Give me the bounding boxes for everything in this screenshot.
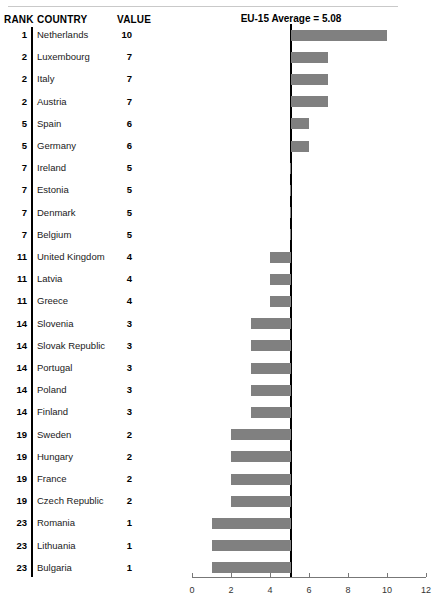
table-row: 2Austria7	[0, 91, 404, 113]
cell-country: Lithuania	[37, 535, 76, 557]
cell-country: Netherlands	[37, 24, 88, 46]
cell-rank: 19	[0, 446, 27, 468]
cell-country: Luxembourg	[37, 46, 90, 68]
table-row: 14Finland3	[0, 401, 404, 423]
cell-rank: 14	[0, 335, 27, 357]
x-axis-tick	[387, 573, 388, 577]
cell-value: 6	[101, 113, 132, 135]
table-row: 23Bulgaria1	[0, 557, 404, 579]
table-row: 11Latvia4	[0, 268, 404, 290]
cell-value: 5	[101, 202, 132, 224]
cell-country: Italy	[37, 68, 54, 90]
x-axis-tick	[348, 573, 349, 577]
cell-rank: 19	[0, 490, 27, 512]
x-axis-tick	[270, 573, 271, 577]
cell-value: 3	[101, 379, 132, 401]
cell-value: 5	[101, 179, 132, 201]
cell-rank: 23	[0, 557, 27, 579]
table-row: 5Spain6	[0, 113, 404, 135]
cell-rank: 5	[0, 113, 27, 135]
cell-value: 1	[101, 557, 132, 579]
cell-country: Romania	[37, 512, 75, 534]
x-axis-tick	[231, 573, 232, 577]
cell-country: Slovak Republic	[37, 335, 105, 357]
cell-country: Latvia	[37, 268, 62, 290]
top-divider	[8, 6, 398, 7]
cell-rank: 7	[0, 202, 27, 224]
cell-value: 2	[101, 446, 132, 468]
table-row: 7Ireland5	[0, 157, 404, 179]
cell-country: Belgium	[37, 224, 71, 246]
cell-rank: 14	[0, 401, 27, 423]
cell-value: 5	[101, 157, 132, 179]
cell-country: Greece	[37, 290, 68, 312]
cell-value: 4	[101, 246, 132, 268]
x-axis-tick-label: 10	[377, 585, 397, 595]
table-row: 23Romania1	[0, 512, 404, 534]
cell-value: 10	[101, 24, 132, 46]
cell-country: Finland	[37, 401, 68, 423]
cell-country: Hungary	[37, 446, 73, 468]
table-row: 11Greece4	[0, 290, 404, 312]
x-axis-tick	[426, 573, 427, 577]
cell-rank: 7	[0, 224, 27, 246]
x-axis-tick-label: 8	[338, 585, 358, 595]
cell-country: Austria	[37, 91, 67, 113]
cell-value: 7	[101, 46, 132, 68]
cell-country: Portugal	[37, 357, 72, 379]
cell-rank: 11	[0, 290, 27, 312]
x-axis-line	[192, 577, 426, 578]
cell-rank: 2	[0, 68, 27, 90]
table-row: 19Sweden2	[0, 424, 404, 446]
cell-country: Denmark	[37, 202, 76, 224]
cell-rank: 2	[0, 46, 27, 68]
cell-country: Slovenia	[37, 313, 73, 335]
cell-rank: 23	[0, 535, 27, 557]
cell-rank: 2	[0, 91, 27, 113]
cell-value: 3	[101, 335, 132, 357]
cell-rank: 1	[0, 24, 27, 46]
cell-rank: 7	[0, 157, 27, 179]
cell-country: Germany	[37, 135, 76, 157]
cell-country: Spain	[37, 113, 61, 135]
table-row: 11United Kingdom4	[0, 246, 404, 268]
cell-rank: 19	[0, 424, 27, 446]
table-row: 14Slovenia3	[0, 313, 404, 335]
cell-country: Sweden	[37, 424, 71, 446]
cell-value: 3	[101, 401, 132, 423]
cell-rank: 11	[0, 246, 27, 268]
x-axis-tick-label: 4	[260, 585, 280, 595]
x-axis-tick	[192, 573, 193, 577]
cell-rank: 7	[0, 179, 27, 201]
table-row: 5Germany6	[0, 135, 404, 157]
cell-country: Ireland	[37, 157, 66, 179]
table-row: 14Slovak Republic3	[0, 335, 404, 357]
cell-rank: 14	[0, 313, 27, 335]
table-row: 14Poland3	[0, 379, 404, 401]
chart-title: EU-15 Average = 5.08	[198, 13, 384, 24]
cell-value: 1	[101, 535, 132, 557]
cell-value: 7	[101, 91, 132, 113]
cell-country: Czech Republic	[37, 490, 104, 512]
cell-value: 7	[101, 68, 132, 90]
table-row: 2Luxembourg7	[0, 46, 404, 68]
cell-country: Bulgaria	[37, 557, 72, 579]
cell-rank: 11	[0, 268, 27, 290]
cell-value: 3	[101, 357, 132, 379]
cell-country: France	[37, 468, 67, 490]
table-row: 7Denmark5	[0, 202, 404, 224]
x-axis-tick-label: 2	[221, 585, 241, 595]
table-row: 19France2	[0, 468, 404, 490]
cell-value: 1	[101, 512, 132, 534]
cell-value: 2	[101, 490, 132, 512]
cell-country: United Kingdom	[37, 246, 105, 268]
table-row: 19Czech Republic2	[0, 490, 404, 512]
table-row: 23Lithuania1	[0, 535, 404, 557]
cell-country: Estonia	[37, 179, 69, 201]
table-row: 14Portugal3	[0, 357, 404, 379]
cell-rank: 5	[0, 135, 27, 157]
table-row: 7Estonia5	[0, 179, 404, 201]
cell-value: 6	[101, 135, 132, 157]
table-row: 2Italy7	[0, 68, 404, 90]
